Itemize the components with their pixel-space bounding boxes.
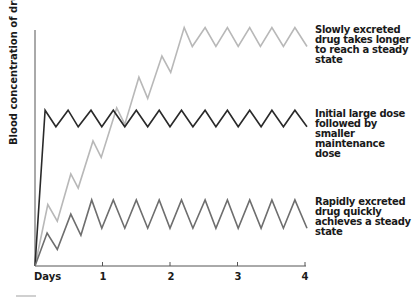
x-tick-1: 1 [100,271,107,282]
annotation-line: state [315,227,412,237]
y-axis-label: Blood concentration of drugs [8,0,19,145]
series-line-1 [35,110,307,266]
x-tick-3: 3 [235,271,242,282]
series-line-2 [35,200,307,266]
x-tick-2: 2 [168,271,175,282]
x-axis-label-days: Days [34,271,61,282]
annotation-line: state [315,55,412,65]
annotation-rapid-excretion: Rapidly excreted drug quickly achieves a… [315,197,412,237]
x-axis-ticks [103,262,306,266]
series-line-0 [35,28,307,266]
annotation-initial-large-dose: Initial large dose followed by smaller m… [315,109,412,159]
annotation-line: followed by smaller [315,119,412,139]
annotation-slow-excretion: Slowly excreted drug takes longer to rea… [315,25,412,65]
series-lines [35,28,307,266]
x-tick-4: 4 [302,271,309,282]
decorative-bar [16,295,36,297]
annotation-line: maintenance dose [315,139,412,159]
